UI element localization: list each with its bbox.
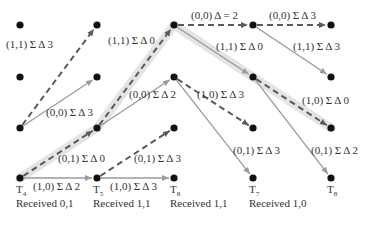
trellis-diagram: (1,1) Σ Δ 3(0,0) Σ Δ 3(0,1) Σ Δ 0(1,0) Σ… [0,0,372,225]
state-node [16,124,23,131]
state-node [327,21,334,28]
edge-label: (0,1) Σ Δ 3 [134,152,181,164]
state-node [16,21,23,28]
time-step-base: T [327,183,334,195]
time-step-subscript: 8 [334,190,338,198]
time-step-base: T [16,183,23,195]
state-node [170,73,177,80]
edge-label: (0,1) Σ Δ 0 [58,152,105,164]
edge-label: (1,1) Σ Δ 3 [293,40,340,52]
state-node [327,73,334,80]
edge-label: (0,0) Σ Δ 2 [129,88,176,100]
state-node [170,124,177,131]
received-label: Received 1,1 [93,197,150,209]
solid-edge [23,80,92,126]
edge-label: (0,1) Σ Δ 3 [233,144,280,156]
edge-label: (1,0) Σ Δ 3 [110,180,157,192]
edge-label: (1,0) Σ Δ 3 [197,88,244,100]
state-node [170,174,177,181]
edge-label: (0,0) Σ Δ 3 [46,106,93,118]
time-step-base: T [93,183,100,195]
state-node [249,73,256,80]
edge-label: (1,0) Σ Δ 2 [33,180,80,192]
edge-label: (0,0) Σ Δ 3 [269,9,316,21]
state-node [93,124,100,131]
edge-label: (0,1) Σ Δ 2 [311,144,358,156]
state-node [93,174,100,181]
received-label: Received 1,1 [170,197,227,209]
state-node [170,21,177,28]
state-node [327,124,334,131]
dashed-edge [177,79,248,125]
edge-label: (1,0) Σ Δ 0 [302,94,349,106]
time-step-base: T [249,183,256,195]
state-node [327,174,334,181]
edge-label: (1,1) Σ Δ 0 [216,40,263,52]
edge-label: (1,1) Σ Δ 0 [108,34,155,46]
time-step-label: T8 [327,183,337,200]
state-node [93,73,100,80]
state-node [249,124,256,131]
state-node [93,21,100,28]
state-node [16,73,23,80]
edge-label: (0,0) Δ = 2 [191,9,238,21]
received-label: Received 1,0 [249,197,306,209]
time-step-base: T [170,183,177,195]
state-node [249,174,256,181]
state-node [16,174,23,181]
received-label: Received 0,1 [16,197,73,209]
state-node [249,21,256,28]
edge-label: (1,1) Σ Δ 3 [6,38,53,50]
